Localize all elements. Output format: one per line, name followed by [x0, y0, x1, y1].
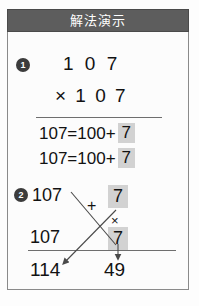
decomposition-highlight-1: 7 — [118, 123, 135, 143]
page-title: 解法演示 — [70, 14, 126, 27]
decomposition-row-1: 107=100+ 7 — [39, 123, 135, 143]
screenshot-root: 解法演示 1 1 0 7 × 1 0 7 107=100+ 7 107=100+… — [0, 0, 199, 306]
multiplicand: 1 0 7 — [63, 54, 120, 73]
decomposition-row-2: 107=100+ 7 — [39, 148, 135, 168]
divider-bottom — [28, 250, 176, 251]
result-right: 49 — [104, 260, 125, 279]
card-header: 解法演示 — [7, 9, 189, 32]
plus-operator: + — [87, 198, 96, 214]
decomposition-highlight-2: 7 — [118, 148, 135, 168]
work-bottom-highlight: 7 — [108, 227, 128, 250]
result-left: 114 — [30, 260, 60, 279]
work-top-number: 107 — [32, 186, 62, 204]
step-marker-1: 1 — [16, 58, 30, 72]
work-bottom-number: 107 — [30, 228, 60, 246]
multiplier-line: × 1 0 7 — [55, 86, 128, 105]
card-body: 1 1 0 7 × 1 0 7 107=100+ 7 107=100+ 7 2 … — [8, 32, 188, 289]
decomposition-expression-1: 107=100+ — [39, 125, 116, 142]
times-operator: × — [111, 214, 119, 227]
step-marker-2: 2 — [14, 188, 28, 202]
decomposition-expression-2: 107=100+ — [39, 150, 116, 167]
work-top-highlight: 7 — [108, 185, 128, 208]
divider-top — [36, 117, 162, 118]
